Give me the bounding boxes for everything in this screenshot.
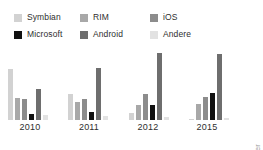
legend-item[interactable]: Microsoft — [14, 26, 80, 43]
legend-item[interactable]: Android — [80, 26, 150, 43]
legend-item-label: RIM — [93, 13, 109, 22]
bar[interactable] — [75, 102, 80, 120]
bar-group — [129, 52, 169, 120]
bar-groups — [0, 52, 237, 120]
legend-item-label: Microsoft — [27, 30, 62, 39]
legend-swatch-icon — [14, 14, 22, 22]
chart-legend: SymbianRIMiOSMicrosoftAndroidAndere — [14, 9, 229, 43]
bar[interactable] — [150, 105, 155, 120]
x-axis-tick: 2011 — [67, 122, 111, 132]
bar[interactable] — [224, 118, 229, 120]
bar-group — [8, 52, 48, 120]
bar[interactable] — [15, 98, 20, 120]
bar[interactable] — [157, 53, 162, 120]
legend-item-label: iOS — [163, 13, 177, 22]
legend-swatch-icon — [150, 14, 158, 22]
bar[interactable] — [29, 114, 34, 120]
legend-item[interactable]: Symbian — [14, 9, 80, 26]
source-note: Quelle: Gartner — [253, 144, 262, 150]
bar[interactable] — [22, 99, 27, 120]
bar[interactable] — [143, 94, 148, 120]
legend-swatch-icon — [80, 14, 88, 22]
bar[interactable] — [217, 54, 222, 120]
x-axis-tick: 2010 — [8, 122, 52, 132]
bar[interactable] — [36, 89, 41, 120]
legend-swatch-icon — [150, 31, 158, 39]
bar[interactable] — [136, 105, 141, 120]
bar-group — [189, 52, 229, 120]
legend-item-label: Symbian — [27, 13, 61, 22]
legend-item[interactable]: iOS — [150, 9, 220, 26]
bar[interactable] — [8, 69, 13, 120]
legend-item[interactable]: Andere — [150, 26, 220, 43]
x-axis-tick: 2012 — [126, 122, 170, 132]
legend-item-label: Andere — [163, 30, 191, 39]
x-axis-labels: 2010201120122015 — [0, 122, 237, 132]
legend-swatch-icon — [14, 31, 22, 39]
legend-swatch-icon — [80, 31, 88, 39]
bar[interactable] — [103, 116, 108, 120]
x-axis-tick: 2015 — [185, 122, 229, 132]
bar[interactable] — [164, 117, 169, 120]
bar[interactable] — [189, 119, 194, 120]
legend-item[interactable]: RIM — [80, 9, 150, 26]
bar[interactable] — [89, 112, 94, 120]
bar[interactable] — [203, 97, 208, 120]
plot-area — [0, 52, 237, 120]
bar[interactable] — [68, 94, 73, 120]
bar[interactable] — [129, 113, 134, 120]
bar[interactable] — [82, 99, 87, 120]
chart-container: SymbianRIMiOSMicrosoftAndroidAndere 2010… — [0, 0, 263, 150]
bar[interactable] — [43, 115, 48, 120]
bar[interactable] — [96, 68, 101, 120]
bar-group — [68, 52, 108, 120]
legend-item-label: Android — [93, 30, 123, 39]
bar[interactable] — [196, 104, 201, 120]
bar[interactable] — [210, 93, 215, 120]
